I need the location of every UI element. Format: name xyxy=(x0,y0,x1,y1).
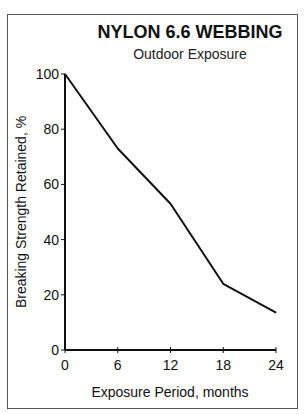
y-axis-label: Breaking Strength Retained, % xyxy=(13,116,29,308)
x-tick-label: 18 xyxy=(215,357,231,373)
chart-subtitle: Outdoor Exposure xyxy=(133,46,247,62)
x-tick-label: 24 xyxy=(268,357,284,373)
y-tick-label: 40 xyxy=(43,232,59,248)
x-axis-label: Exposure Period, months xyxy=(91,384,248,400)
x-tick-label: 12 xyxy=(163,357,179,373)
y-tick-label: 60 xyxy=(43,176,59,192)
data-point xyxy=(65,74,66,75)
data-point xyxy=(170,203,171,204)
y-tick-label: 80 xyxy=(43,121,59,137)
y-tick-label: 100 xyxy=(36,66,60,82)
chart-title: NYLON 6.6 WEBBING xyxy=(97,22,282,42)
data-point xyxy=(276,312,277,313)
data-point xyxy=(223,283,224,284)
chart: NYLON 6.6 WEBBING Outdoor Exposure Expos… xyxy=(0,0,305,414)
y-tick-label: 20 xyxy=(43,287,59,303)
series-line xyxy=(65,74,276,313)
y-tick-label: 0 xyxy=(51,342,59,358)
data-point xyxy=(117,148,118,149)
x-tick-label: 0 xyxy=(61,357,69,373)
x-tick-label: 6 xyxy=(114,357,122,373)
